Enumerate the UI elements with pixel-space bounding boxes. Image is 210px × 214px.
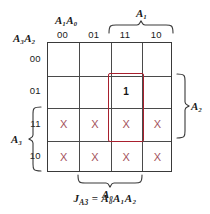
kmap-cell[interactable] xyxy=(79,76,110,109)
kmap-cell-dontcare[interactable]: X xyxy=(48,141,79,174)
kmap-cell-dontcare[interactable]: X xyxy=(142,108,173,141)
bracket-a3-text: A₃ xyxy=(11,133,22,145)
column-variable-text: A₁A₀ xyxy=(55,14,77,26)
kmap-cell-dontcare[interactable]: X xyxy=(111,141,142,174)
bracket-a0 xyxy=(77,174,143,188)
kmap-cell-dontcare[interactable]: X xyxy=(142,141,173,174)
row-header-1: 01 xyxy=(17,75,43,108)
bracket-a1-label: A₁ xyxy=(136,8,147,19)
kmap-cell-dontcare[interactable]: X xyxy=(79,108,110,141)
equation-rhs: A₀A₁A₂ xyxy=(101,192,136,204)
bracket-a1-text: A₁ xyxy=(136,7,147,19)
kmap-cell[interactable] xyxy=(48,43,79,76)
column-variable-label: A₁A₀ xyxy=(55,15,77,26)
equation-operator: = xyxy=(89,192,102,204)
bracket-a2-label: A₂ xyxy=(191,101,202,112)
column-header-0: 00 xyxy=(47,29,78,40)
kmap-cell-dontcare[interactable]: X xyxy=(48,108,79,141)
kmap-grid: 1 X X X X X X X X xyxy=(47,42,172,172)
kmap-cell[interactable] xyxy=(79,43,110,76)
column-header-1: 01 xyxy=(78,29,109,40)
bracket-a3 xyxy=(28,106,42,174)
karnaugh-map-figure: A₁A₀ A₃A₂ A₁ 00 01 11 10 00 01 11 10 A₃ xyxy=(0,0,210,214)
column-header-3: 10 xyxy=(141,29,172,40)
group-highlight-box[interactable] xyxy=(108,73,144,142)
kmap-cell[interactable] xyxy=(111,43,142,76)
equation-lhs-subscript: A3 xyxy=(79,198,88,207)
bracket-a2 xyxy=(176,73,190,141)
kmap-cell-dontcare[interactable]: X xyxy=(79,141,110,174)
kmap-cell[interactable] xyxy=(142,76,173,109)
kmap-cell[interactable] xyxy=(142,43,173,76)
row-header-0: 00 xyxy=(17,42,43,75)
column-header-2: 11 xyxy=(110,29,141,40)
kmap-cell[interactable] xyxy=(48,76,79,109)
bracket-a2-text: A₂ xyxy=(191,100,202,112)
equation: JA3=A₀A₁A₂ xyxy=(0,192,210,207)
bracket-a3-label: A₃ xyxy=(11,134,22,145)
